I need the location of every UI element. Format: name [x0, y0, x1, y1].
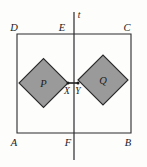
- label-a: A: [10, 137, 18, 148]
- label-y: Y: [75, 86, 82, 96]
- label-c: C: [123, 22, 131, 33]
- label-x: X: [63, 86, 71, 96]
- label-d: D: [9, 22, 18, 33]
- label-q: Q: [99, 75, 107, 86]
- label-f: F: [64, 137, 72, 148]
- geometry-figure: D E C A F B t P Q X Y: [0, 0, 147, 167]
- label-b: B: [125, 137, 132, 148]
- label-t: t: [78, 10, 81, 20]
- label-p: P: [39, 78, 47, 89]
- point-x-dot: [67, 82, 70, 85]
- label-e: E: [58, 22, 66, 33]
- figure-canvas: D E C A F B t P Q X Y: [0, 0, 147, 167]
- point-y-dot: [77, 82, 80, 85]
